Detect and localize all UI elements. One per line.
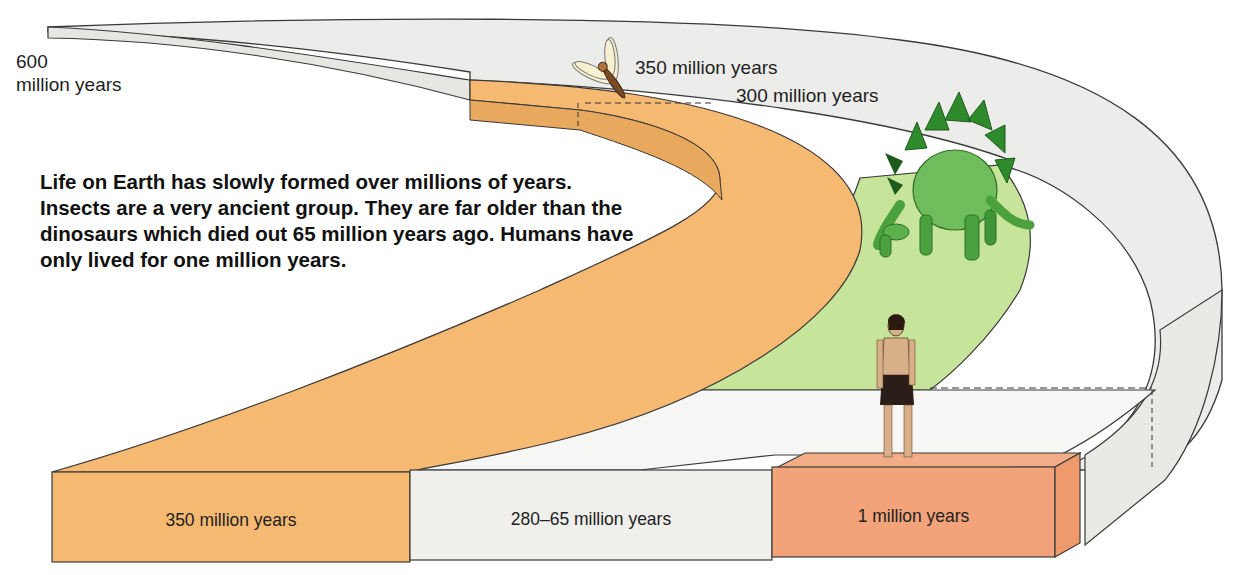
timeline-diagram: 600 million years 350 million years 300 … [0,0,1239,575]
timeline-ribbon [0,0,1239,575]
block-humans-side [1055,453,1080,557]
block-humans-label: 1 million years [783,505,1043,527]
dinosaurs-marker-label: 300 million years [736,85,879,106]
block-dinosaurs-label: 280–65 million years [424,508,757,530]
intro-paragraph: Life on Earth has slowly formed over mil… [40,169,640,273]
insects-marker-label: 350 million years [635,57,778,78]
start-label-unit: million years [16,74,122,95]
start-label-number: 600 [16,51,48,72]
block-insects-label: 350 million years [66,509,395,531]
